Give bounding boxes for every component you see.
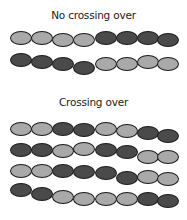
light-bead <box>116 124 138 138</box>
dark-bead <box>31 55 53 69</box>
dark-bead <box>95 166 117 180</box>
light-bead <box>10 164 32 178</box>
light-bead <box>52 33 74 47</box>
light-bead <box>137 55 159 69</box>
dark-bead <box>52 164 74 178</box>
dark-bead <box>10 143 32 157</box>
crossing-over-title: Crossing over <box>0 96 187 108</box>
light-bead <box>157 150 179 164</box>
dark-bead <box>137 126 159 140</box>
dark-bead <box>116 145 138 159</box>
dark-bead <box>73 123 95 137</box>
light-bead <box>157 57 179 71</box>
dark-bead <box>157 194 179 208</box>
dark-bead <box>157 33 179 47</box>
dark-bead <box>10 53 32 67</box>
no-crossing-over-title: No crossing over <box>0 9 187 21</box>
light-bead <box>116 57 138 71</box>
light-bead <box>95 122 117 136</box>
light-bead <box>52 144 74 158</box>
dark-bead <box>95 143 117 157</box>
light-bead <box>10 122 32 136</box>
dark-bead <box>116 31 138 45</box>
light-bead <box>95 57 117 71</box>
dark-bead <box>10 183 32 197</box>
dark-bead <box>157 129 179 143</box>
light-bead <box>73 142 95 156</box>
light-bead <box>137 170 159 184</box>
dark-bead <box>95 31 117 45</box>
dark-bead <box>137 31 159 45</box>
dark-bead <box>31 187 53 201</box>
light-bead <box>10 31 32 45</box>
light-bead <box>52 190 74 204</box>
light-bead <box>31 31 53 45</box>
dark-bead <box>52 122 74 136</box>
light-bead <box>95 192 117 206</box>
dark-bead <box>31 143 53 157</box>
dark-bead <box>73 61 95 75</box>
dark-bead <box>52 57 74 71</box>
dark-bead <box>73 165 95 179</box>
dark-bead <box>137 192 159 206</box>
light-bead <box>73 192 95 206</box>
light-bead <box>31 122 53 136</box>
light-bead <box>157 172 179 186</box>
dark-bead <box>116 171 138 185</box>
light-bead <box>137 150 159 164</box>
light-bead <box>31 164 53 178</box>
light-bead <box>116 192 138 206</box>
light-bead <box>73 33 95 47</box>
